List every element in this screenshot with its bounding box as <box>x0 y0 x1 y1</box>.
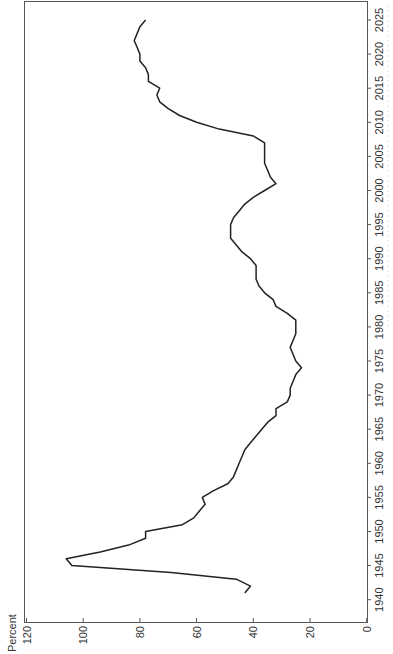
year-tick-label: 1950 <box>373 519 385 543</box>
year-tick-label: 1985 <box>373 281 385 305</box>
percent-tick-label: 60 <box>191 626 203 638</box>
plot-frame <box>25 2 368 623</box>
year-tick-label: 1965 <box>373 417 385 441</box>
percent-tick-label: 20 <box>304 626 316 638</box>
year-tick-label: 2020 <box>373 42 385 66</box>
percent-tick-label: 0 <box>361 626 373 632</box>
year-tick-label: 1970 <box>373 383 385 407</box>
year-tick-label: 1975 <box>373 349 385 373</box>
year-tick-label: 2005 <box>373 144 385 168</box>
year-tick-label: 1960 <box>373 451 385 475</box>
year-tick-label: 1955 <box>373 485 385 509</box>
year-tick-label: 2010 <box>373 110 385 134</box>
year-tick-label: 1990 <box>373 246 385 270</box>
year-tick-label: 2025 <box>373 8 385 32</box>
year-axis: 1940194519501955196019651970197519801985… <box>25 8 386 612</box>
percent-tick-label: 40 <box>247 626 259 638</box>
percent-series-line <box>66 20 301 593</box>
percent-tick-label: 120 <box>21 626 33 644</box>
percent-axis: 020406080100120 <box>21 618 373 644</box>
year-tick-label: 2015 <box>373 76 385 100</box>
year-tick-label: 1940 <box>373 587 385 611</box>
year-tick-label: 1945 <box>373 553 385 577</box>
year-tick-label: 1995 <box>373 212 385 236</box>
year-tick-label: 2000 <box>373 178 385 202</box>
debt-percent-line-chart: 020406080100120 194019451950195519601965… <box>0 0 393 654</box>
year-tick-label: 1980 <box>373 315 385 339</box>
percent-tick-label: 100 <box>77 626 89 644</box>
percent-tick-label: 80 <box>134 626 146 638</box>
y-axis-title: Percent <box>6 614 18 652</box>
